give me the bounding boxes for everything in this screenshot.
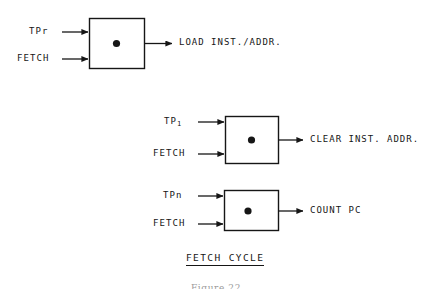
- input-label-fetch-3: FETCH: [153, 219, 186, 228]
- load-block-center-dot: [113, 40, 120, 47]
- input-label-tpr: TPr: [29, 27, 49, 36]
- input-label-fetch-1: FETCH: [17, 54, 50, 63]
- clear-inst-addr-block-group: [198, 117, 303, 164]
- clear-block-center-dot: [248, 136, 255, 143]
- output-label-load-inst-addr: LOAD INST./ADDR.: [179, 38, 282, 47]
- figure-caption: Figure 22: [191, 284, 241, 289]
- tp1-base: TP: [164, 116, 177, 126]
- input-label-tpn: TPn: [163, 191, 183, 200]
- input-label-fetch-2: FETCH: [153, 149, 186, 158]
- section-caption-fetch-cycle: FETCH CYCLE: [186, 253, 264, 266]
- count-block-center-dot: [244, 207, 251, 214]
- output-label-clear-inst-addr: CLEAR INST. ADDR.: [310, 135, 419, 144]
- load-inst-addr-block-group: [62, 19, 172, 69]
- input-label-tp1: TP1: [164, 117, 181, 128]
- tp1-subscript: 1: [177, 120, 181, 128]
- count-pc-block-group: [198, 191, 303, 231]
- output-label-count-pc: COUNT PC: [310, 206, 361, 215]
